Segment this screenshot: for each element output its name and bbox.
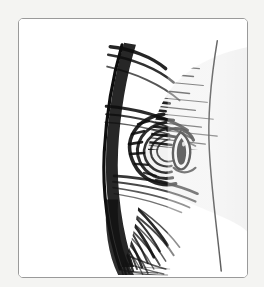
artwork-root <box>0 0 264 287</box>
light-falloff-veil <box>168 19 247 277</box>
ink-drawing-plate <box>19 19 247 277</box>
artwork-frame <box>18 18 248 278</box>
